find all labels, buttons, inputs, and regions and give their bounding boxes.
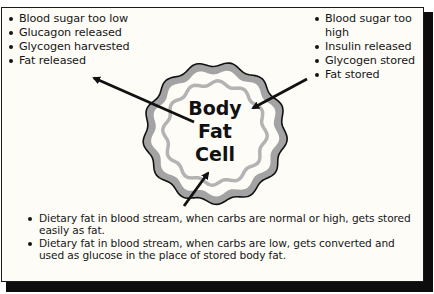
list-item-text: Glycogen stored — [325, 54, 415, 67]
list-item-text: Fat released — [19, 54, 86, 67]
bullet-icon — [315, 73, 319, 77]
list-item-text: Glycogen harvested — [19, 40, 129, 53]
list-item-text: Dietary fat in blood stream, when carbs … — [39, 237, 395, 261]
bullet-icon — [9, 17, 13, 21]
list-item: Blood sugar too high — [313, 12, 434, 40]
bullet-icon — [315, 45, 319, 49]
list-item: Fat released — [7, 54, 129, 68]
list-item: Glycogen harvested — [7, 40, 129, 54]
bullet-icon — [9, 59, 13, 63]
bullet-icon — [9, 45, 13, 49]
bullet-icon — [28, 242, 32, 246]
bullet-icon — [28, 217, 32, 221]
list-item-text: Fat stored — [325, 68, 380, 81]
list-item: Insulin released — [313, 40, 434, 54]
bullet-icon — [315, 59, 319, 63]
list-item-text: Blood sugar too low — [19, 12, 128, 25]
list-item-text: Glucagon released — [19, 26, 122, 39]
cell-label-fat: Fat — [175, 120, 255, 143]
bullet-icon — [9, 31, 13, 35]
dietary-fat-list: Dietary fat in blood stream, when carbs … — [26, 213, 411, 263]
bullet-icon — [315, 17, 319, 21]
low-blood-sugar-list: Blood sugar too low Glucagon released Gl… — [7, 12, 129, 68]
list-item: Dietary fat in blood stream, when carbs … — [26, 238, 411, 261]
list-item: Glycogen stored — [313, 54, 434, 68]
list-item: Glucagon released — [7, 26, 129, 40]
list-item: Blood sugar too low — [7, 12, 129, 26]
list-item-text: Blood sugar too high — [325, 12, 412, 39]
list-item-text: Dietary fat in blood stream, when carbs … — [39, 212, 411, 236]
cell-label-cell: Cell — [175, 143, 255, 166]
high-blood-sugar-list: Blood sugar too high Insulin released Gl… — [313, 12, 434, 82]
list-item-text: Insulin released — [325, 40, 411, 53]
cell-label-body: Body — [175, 97, 255, 120]
list-item: Dietary fat in blood stream, when carbs … — [26, 213, 411, 236]
list-item: Fat stored — [313, 68, 434, 82]
